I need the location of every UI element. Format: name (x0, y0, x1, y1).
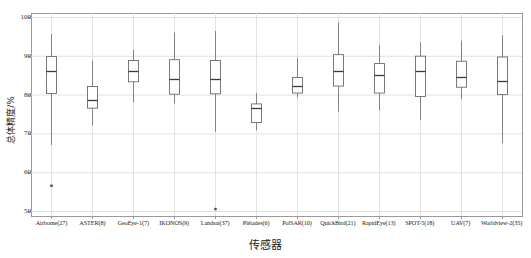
outlier-point (50, 185, 52, 187)
outlier-point (214, 208, 216, 210)
y-axis-tick-label: 50 (11, 207, 31, 215)
x-axis-tick-label: SPOT-5(18) (405, 219, 434, 226)
boxplot-figure: 总体精度/% 5060708090100 Airborne(27)ASTER(8… (0, 0, 531, 258)
x-axis-tick-label: RapidEye(13) (362, 219, 396, 226)
y-axis-tick-label: 60 (11, 168, 31, 176)
x-axis-tick-label: QuickBird(21) (320, 219, 355, 226)
y-axis-tick-label: 100 (11, 13, 31, 21)
x-axis-label: 传感器 (0, 236, 531, 252)
x-axis-tick-label: GeoEye-1(7) (118, 219, 149, 226)
box-plot-item (416, 42, 426, 120)
plot-frame (32, 14, 523, 217)
box-plot-item (252, 93, 262, 130)
x-axis-tick-label: Pléiades(6) (243, 219, 270, 226)
box-plot-item (170, 33, 180, 104)
x-axis-tick-label: Worldview-2(35) (481, 219, 522, 226)
y-axis-tick-label: 70 (11, 129, 31, 137)
box-plot-item (498, 35, 508, 143)
box-plot-item (129, 50, 139, 103)
box-plot-item (88, 60, 98, 125)
box-plot-item (293, 58, 303, 98)
box-plot-item (375, 45, 385, 110)
y-axis-tick-labels: 5060708090100 (9, 0, 31, 258)
x-axis-tick-label: Airborne(27) (36, 219, 67, 226)
box-plot-item (457, 41, 467, 100)
x-axis-tick-label: IKONOS(9) (159, 219, 189, 226)
y-axis-tick-label: 80 (11, 91, 31, 99)
x-axis-tick-label: ASTER(8) (79, 219, 105, 226)
y-axis-tick-label: 90 (11, 52, 31, 60)
box-plot-item (334, 22, 344, 111)
x-axis-tick-label: Landsat(37) (201, 219, 230, 226)
x-axis-tick-label: UAV(7) (451, 219, 470, 226)
x-axis-tick-label: PolSAR(10) (282, 219, 312, 226)
